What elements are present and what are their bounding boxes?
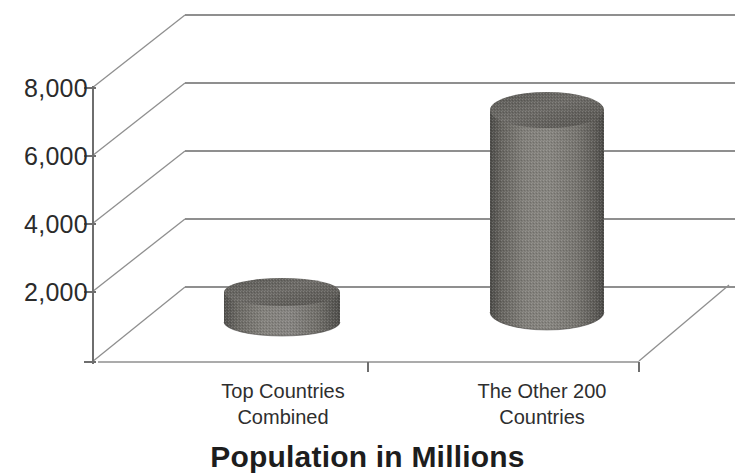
y-axis-label-4000-wrap: 4,000 [0,212,88,237]
chart-title: Population in Millions [0,441,735,473]
x-axis-category-label-1-line-1: Top Countries [158,378,408,404]
x-axis-category-label-2-line-2: Countries [417,404,667,430]
x-axis-category-label-1: Top Countries Combined [158,378,408,430]
x-axis-category-label-2: The Other 200 Countries [417,378,667,430]
depth-line-10000 [92,15,185,88]
depth-line-8000 [92,83,185,156]
x-axis-ticks [368,362,639,372]
bar-2-cap-texture [490,92,604,128]
x-axis-category-label-1-line-2: Combined [158,404,408,430]
bar-the-other-200-countries[interactable] [486,88,610,336]
depth-line-2000 [92,287,185,362]
y-axis-label-6000: 6,000 [2,144,88,169]
y-axis-label-8000-wrap: 8,000 [0,76,88,101]
depth-line-6000 [92,151,185,224]
y-axis-label-8000: 8,000 [2,76,88,101]
bar-top-countries-combined[interactable] [220,276,346,342]
y-axis-label-2000: 2,000 [2,280,88,305]
bar-1-cap-texture [224,278,340,306]
gridlines-back-wall [185,15,735,287]
depth-line-4000 [92,219,185,292]
floor-right-edge [639,285,729,361]
x-axis-category-label-2-line-1: The Other 200 [417,378,667,404]
y-axis-label-4000: 4,000 [2,212,88,237]
y-axis-label-6000-wrap: 6,000 [0,144,88,169]
depth-connectors [92,15,185,362]
y-axis-label-2000-wrap: 2,000 [0,280,88,305]
floor-plane [98,285,729,362]
